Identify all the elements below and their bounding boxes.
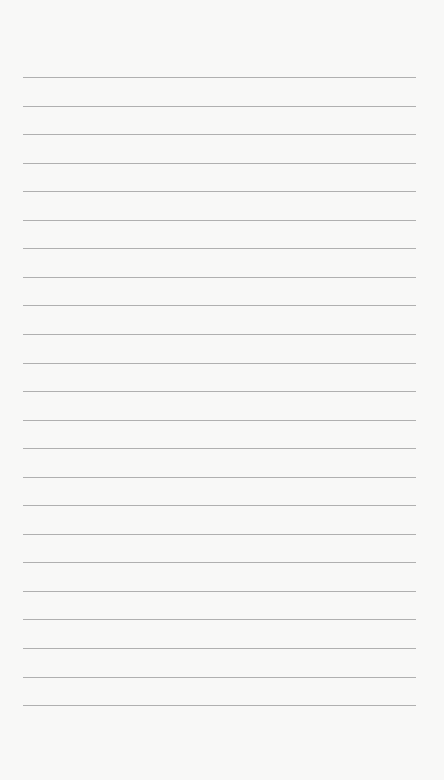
ruled-line xyxy=(23,591,416,592)
ruled-line xyxy=(23,391,416,392)
ruled-line xyxy=(23,705,416,706)
ruled-line xyxy=(23,334,416,335)
ruled-line xyxy=(23,448,416,449)
ruled-line xyxy=(23,420,416,421)
ruled-line xyxy=(23,163,416,164)
ruled-line xyxy=(23,534,416,535)
ruled-line xyxy=(23,677,416,678)
ruled-line xyxy=(23,477,416,478)
ruled-line xyxy=(23,220,416,221)
ruled-line xyxy=(23,505,416,506)
ruled-line xyxy=(23,191,416,192)
ruled-line xyxy=(23,305,416,306)
ruled-line xyxy=(23,106,416,107)
ruled-line xyxy=(23,277,416,278)
ruled-line xyxy=(23,363,416,364)
ruled-line xyxy=(23,134,416,135)
ruled-line xyxy=(23,562,416,563)
ruled-line xyxy=(23,619,416,620)
ruled-line xyxy=(23,648,416,649)
lined-paper-sheet xyxy=(0,0,444,780)
ruled-line xyxy=(23,248,416,249)
ruled-line xyxy=(23,77,416,78)
